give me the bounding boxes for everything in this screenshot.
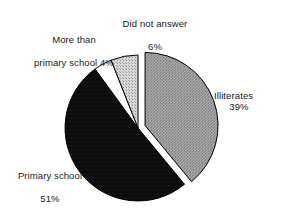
- pie-label-did-not-answer: Did not answer 6%: [112, 6, 198, 52]
- pie-label-did-not-answer-value: 6%: [148, 41, 162, 52]
- pie-label-primary-school: Primary school 51%: [8, 158, 92, 204]
- pie-label-illiterates-value: 39%: [214, 101, 264, 113]
- pie-label-illiterates: Illiterates 39%: [214, 78, 280, 124]
- pie-label-primary-school-value: 51%: [40, 193, 59, 204]
- pie-label-did-not-answer-name: Did not answer: [123, 18, 188, 29]
- pie-label-illiterates-name: Illiterates: [214, 90, 253, 101]
- pie-label-more-than-primary-school-line2: primary school 4%: [34, 57, 114, 68]
- pie-label-more-than-primary-school-line1: More than: [52, 34, 96, 45]
- pie-label-more-than-primary-school: More than primary school 4%: [22, 22, 126, 68]
- pie-chart-figure: Illiterates 39% Primary school 51% More …: [0, 0, 282, 224]
- pie-label-primary-school-name: Primary school: [18, 170, 82, 181]
